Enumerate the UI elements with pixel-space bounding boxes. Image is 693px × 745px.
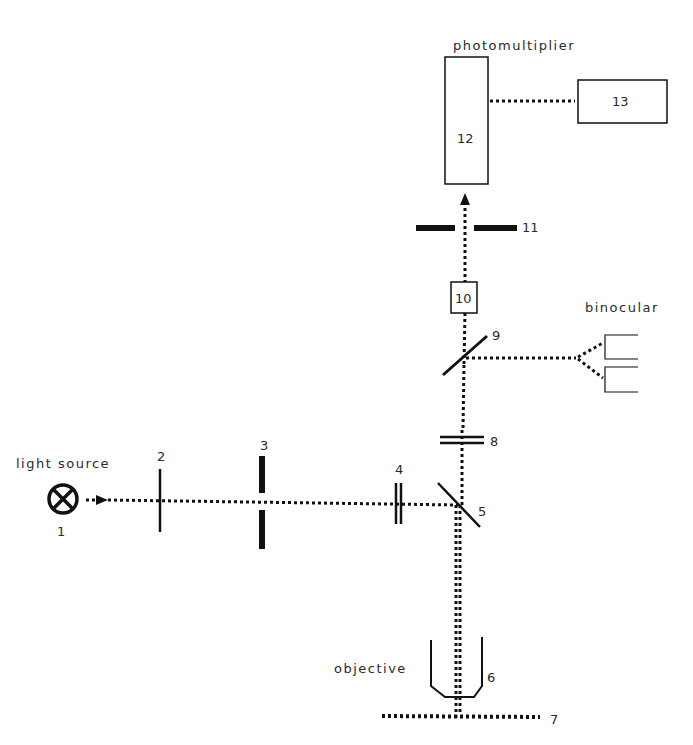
number-5: 5 <box>478 504 486 519</box>
binocular-eyepiece-lower <box>605 367 638 392</box>
number-8: 8 <box>490 434 498 449</box>
label-light-source: light source <box>16 456 110 471</box>
component-11-aperture-right <box>474 225 517 231</box>
label-binocular: binocular <box>585 300 659 315</box>
number-13: 13 <box>612 94 629 109</box>
component-3-aperture-top <box>259 456 265 493</box>
component-12-photomultiplier <box>445 57 488 184</box>
arrow-head-detector-icon <box>460 193 470 205</box>
number-7: 7 <box>550 712 558 727</box>
number-12: 12 <box>457 131 474 146</box>
beam-up-8-9 <box>463 364 464 428</box>
diagram-canvas: light source photomultiplier binocular o… <box>0 0 693 745</box>
number-1: 1 <box>57 524 65 539</box>
label-objective: objective <box>334 661 407 676</box>
number-10: 10 <box>455 291 472 306</box>
beam-binocular-upper <box>578 343 603 357</box>
component-11-aperture-left <box>416 225 455 231</box>
arrow-head-source-icon <box>96 495 108 505</box>
number-2: 2 <box>157 449 165 464</box>
optical-diagram: light source photomultiplier binocular o… <box>0 0 693 745</box>
label-photomultiplier: photomultiplier <box>453 38 575 53</box>
number-9: 9 <box>492 328 500 343</box>
component-9-beam-splitter <box>443 336 487 375</box>
light-source-lamp-icon <box>49 485 77 513</box>
number-3: 3 <box>260 438 268 453</box>
binocular-eyepiece-upper <box>605 335 638 359</box>
number-11: 11 <box>522 220 539 235</box>
component-3-aperture-bottom <box>259 510 265 549</box>
beam-binocular-lower <box>578 359 603 378</box>
beam-paths <box>86 101 603 718</box>
number-4: 4 <box>395 462 403 477</box>
specimen-slide <box>382 716 540 717</box>
number-6: 6 <box>487 670 495 685</box>
